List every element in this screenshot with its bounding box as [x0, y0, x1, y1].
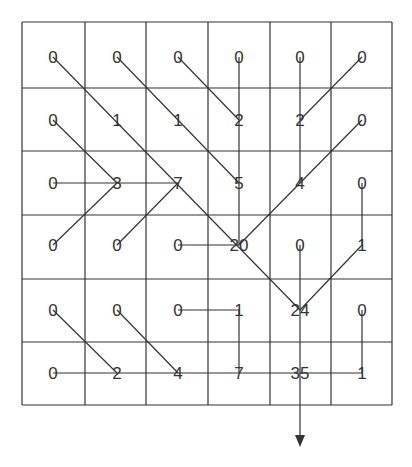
cell-value: 0	[357, 111, 366, 130]
cell-value: 1	[357, 236, 366, 255]
cell-value: 2	[112, 364, 121, 383]
cell-value: 7	[173, 174, 182, 193]
cell-value: 35	[291, 364, 310, 383]
cell-value: 1	[112, 111, 121, 130]
cell-value: 5	[234, 174, 243, 193]
output-arrow	[295, 245, 305, 447]
cell-value: 1	[173, 111, 182, 130]
cell-value: 1	[234, 301, 243, 320]
cell-value: 0	[48, 111, 57, 130]
cell-value: 7	[234, 364, 243, 383]
cell-value: 0	[357, 301, 366, 320]
cell-value: 1	[357, 364, 366, 383]
cell-value: 0	[48, 301, 57, 320]
cell-value: 0	[173, 236, 182, 255]
cell-value: 0	[173, 48, 182, 67]
grid-lines	[22, 22, 392, 405]
cell-value: 0	[48, 364, 57, 383]
cell-value: 0	[112, 236, 121, 255]
cell-value: 3	[112, 174, 121, 193]
cell-value: 0	[357, 174, 366, 193]
cell-value: 0	[48, 174, 57, 193]
cell-value: 0	[357, 48, 366, 67]
cell-value: 0	[234, 48, 243, 67]
cell-value: 0	[48, 236, 57, 255]
cell-value: 2	[295, 111, 304, 130]
cell-value: 0	[48, 48, 57, 67]
connection-line	[117, 183, 178, 245]
cell-value: 0	[112, 48, 121, 67]
cell-value: 0	[112, 301, 121, 320]
cell-value: 20	[230, 236, 249, 255]
cell-value: 0	[295, 236, 304, 255]
cell-value: 24	[291, 301, 310, 320]
cell-value: 0	[295, 48, 304, 67]
cell-value: 4	[295, 174, 304, 193]
cell-value: 2	[234, 111, 243, 130]
arrow-down-icon	[295, 435, 305, 447]
cell-value: 0	[173, 301, 182, 320]
cell-value: 4	[173, 364, 182, 383]
lattice-path-diagram: 000000011220037540000200100012400247351	[0, 0, 412, 467]
